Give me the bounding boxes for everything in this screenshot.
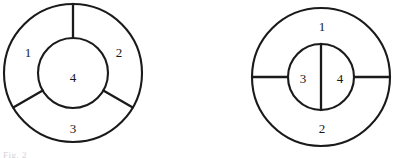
left-region-label-1: 1 xyxy=(25,46,32,59)
left-spoke-lower-right xyxy=(103,91,132,108)
left-region-label-4: 4 xyxy=(70,71,77,84)
right-region-label-2: 2 xyxy=(319,122,326,135)
left-region-label-2: 2 xyxy=(116,46,123,59)
figure-caption: Fig. 2 xyxy=(3,150,27,158)
right-region-label-3: 3 xyxy=(300,72,307,85)
right-region-label-1: 1 xyxy=(319,20,326,33)
left-region-label-3: 3 xyxy=(70,122,77,135)
right-region-label-4: 4 xyxy=(337,72,344,85)
left-spoke-lower-left xyxy=(13,91,42,108)
